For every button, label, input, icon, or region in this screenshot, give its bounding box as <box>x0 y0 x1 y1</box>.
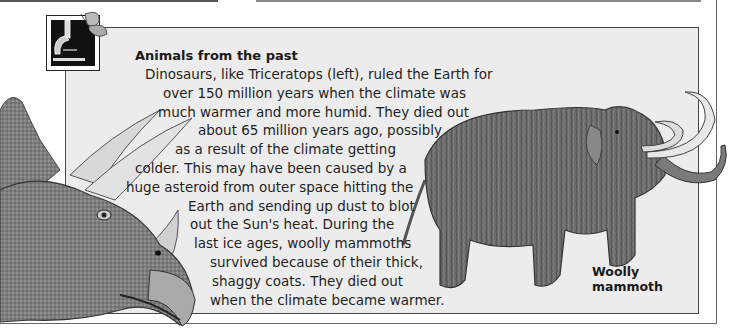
body-line: as a result of the climate getting <box>175 140 400 159</box>
body-line: much warmer and more humid. They died ou… <box>158 103 400 122</box>
panel-body: Dinosaurs, like Triceratops (left), rule… <box>100 65 400 309</box>
body-line: huge asteroid from outer space hitting t… <box>126 178 400 197</box>
body-line: colder. This may have been caused by a <box>135 159 400 178</box>
body-line: over 150 million years when the climate … <box>163 84 400 103</box>
body-line: survived because of their thick, <box>210 253 400 272</box>
body-line: out the Sun's heat. During the <box>190 215 400 234</box>
body-line: Earth and sending up dust to blot <box>188 197 400 216</box>
body-line: when the climate became warmer. <box>210 291 400 310</box>
body-line: last ice ages, woolly mammoths <box>194 234 400 253</box>
caption-line: Woolly <box>592 264 663 279</box>
mammoth-caption: Woolly mammoth <box>592 264 663 294</box>
panel-title: Animals from the past <box>135 48 298 63</box>
body-line: shaggy coats. They died out <box>212 272 400 291</box>
body-line: Dinosaurs, like Triceratops (left), rule… <box>145 65 400 84</box>
body-line: about 65 million years ago, possibly <box>198 121 400 140</box>
caption-line: mammoth <box>592 279 663 294</box>
microscope-butterfly-icon <box>46 15 100 71</box>
